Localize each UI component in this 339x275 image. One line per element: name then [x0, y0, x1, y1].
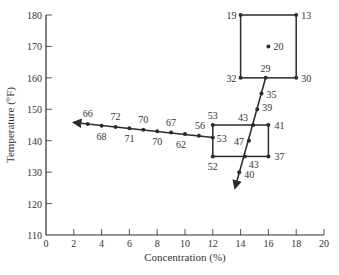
data-point — [169, 131, 173, 135]
data-point — [243, 154, 247, 158]
x-axis-label: Concentration (%) — [144, 251, 226, 264]
y-tick-label: 110 — [27, 230, 42, 241]
point-label: 72 — [111, 111, 121, 122]
x-tick-label: 6 — [127, 238, 132, 249]
data-point — [211, 154, 215, 158]
x-tick-label: 12 — [208, 238, 218, 249]
y-tick-label: 150 — [27, 104, 42, 115]
data-point — [114, 125, 118, 129]
data-point — [127, 126, 131, 130]
point-label: 53 — [217, 133, 227, 144]
point-label: 66 — [83, 108, 93, 119]
data-point — [266, 44, 270, 48]
point-label: 39 — [262, 102, 272, 113]
data-point — [294, 76, 298, 80]
point-label: 20 — [273, 41, 283, 52]
chart-canvas: 0246810121416182011012013014015016017018… — [0, 0, 339, 275]
point-label: 43 — [238, 112, 248, 123]
point-label: 52 — [208, 161, 218, 172]
point-label: 62 — [176, 139, 186, 150]
y-tick-label: 160 — [27, 73, 42, 84]
y-tick-label: 130 — [27, 167, 42, 178]
data-point — [100, 124, 104, 128]
point-label: 29 — [261, 63, 271, 74]
point-label: 68 — [97, 131, 107, 142]
point-label: 32 — [227, 73, 237, 84]
point-label: 40 — [244, 169, 254, 180]
x-tick-label: 4 — [99, 238, 104, 249]
data-point — [239, 76, 243, 80]
y-tick-label: 170 — [27, 41, 42, 52]
data-point — [251, 123, 255, 127]
data-point — [259, 92, 263, 96]
data-point — [266, 123, 270, 127]
point-label: 37 — [274, 151, 284, 162]
x-tick-label: 8 — [155, 238, 160, 249]
x-tick-label: 16 — [263, 238, 273, 249]
y-tick-label: 120 — [27, 199, 42, 210]
y-tick-label: 140 — [27, 136, 42, 147]
data-point — [255, 107, 259, 111]
point-label: 70 — [138, 114, 148, 125]
plot-area: 1913203230534153523729353943474340666872… — [74, 10, 311, 188]
x-tick-label: 18 — [291, 238, 301, 249]
point-label: 30 — [301, 73, 311, 84]
point-label: 47 — [234, 136, 244, 147]
point-label: 19 — [227, 10, 237, 21]
data-point — [264, 76, 268, 80]
data-point — [183, 132, 187, 136]
x-tick-label: 20 — [319, 238, 329, 249]
point-label: 71 — [124, 133, 134, 144]
x-tick-label: 10 — [180, 238, 190, 249]
x-tick-label: 14 — [236, 238, 246, 249]
data-point — [86, 122, 90, 126]
x-tick-label: 2 — [71, 238, 76, 249]
y-tick-label: 180 — [27, 10, 42, 21]
data-point — [211, 123, 215, 127]
point-label: 67 — [166, 117, 176, 128]
data-point — [294, 13, 298, 17]
point-label: 13 — [301, 10, 311, 21]
x-tick-label: 0 — [44, 238, 49, 249]
point-label: 70 — [152, 136, 162, 147]
point-label: 56 — [195, 120, 205, 131]
data-point — [141, 128, 145, 132]
data-point — [237, 170, 241, 174]
point-label: 41 — [274, 120, 284, 131]
y-axis-label: Temperature (°F) — [4, 87, 17, 163]
data-point — [239, 13, 243, 17]
point-label: 35 — [266, 89, 276, 100]
data-point — [266, 154, 270, 158]
steepest-path-left: 666872717070676256 — [74, 108, 213, 150]
point-label: 53 — [208, 110, 218, 121]
data-point — [155, 129, 159, 133]
data-point — [197, 134, 201, 138]
data-point — [247, 139, 251, 143]
